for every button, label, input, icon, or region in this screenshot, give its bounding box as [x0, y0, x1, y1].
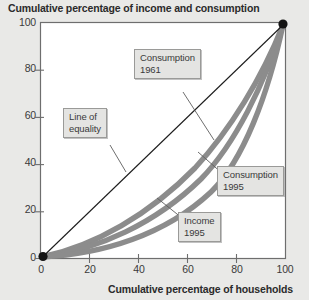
- callout-line-1: Income: [184, 215, 215, 227]
- callout-consumption-1961[interactable]: Consumption 1961: [134, 49, 201, 79]
- callout-line-2: 1995: [184, 227, 215, 239]
- callout-line-1: Consumption: [223, 169, 278, 181]
- callout-consumption-1995[interactable]: Consumption 1995: [217, 166, 284, 196]
- callout-line-2: 1961: [140, 64, 195, 76]
- convergence-marker: [278, 19, 287, 28]
- chart-figure: Cumulative percentage of income and cons…: [0, 0, 309, 300]
- callout-line-2: 1995: [223, 181, 278, 193]
- callout-line-of-equality[interactable]: Line of equality: [63, 108, 107, 138]
- origin-marker: [38, 252, 47, 261]
- callout-line-2: equality: [69, 123, 101, 135]
- plot-canvas: [0, 0, 309, 300]
- callout-line-1: Line of: [69, 111, 101, 123]
- callout-income-1995[interactable]: Income 1995: [178, 212, 221, 242]
- callout-line-1: Consumption: [140, 52, 195, 64]
